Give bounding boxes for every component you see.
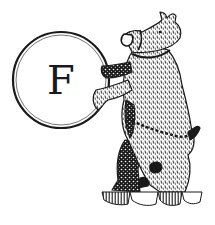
roundel-letter: F — [47, 57, 75, 103]
bear-illustration — [93, 12, 200, 192]
roundel: F — [13, 32, 109, 128]
bear-roundel-logo: F — [0, 0, 215, 225]
ground-base — [102, 192, 202, 205]
